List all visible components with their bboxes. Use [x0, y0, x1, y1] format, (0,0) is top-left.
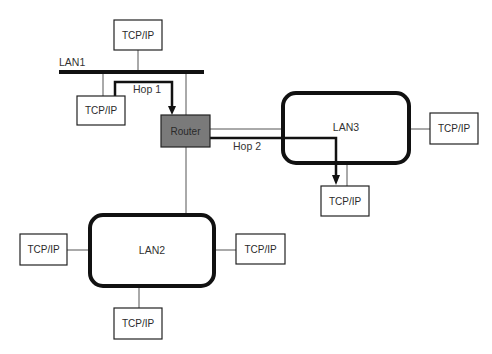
hop-2-label: Hop 2 [233, 140, 261, 152]
hop-2-arrowhead [332, 175, 340, 185]
network-diagram: LAN1 LAN3 LAN2 Hop 1 Hop 2 Router TCP/IP… [0, 0, 492, 354]
lan3-label: LAN3 [333, 121, 359, 133]
hop-1-arrowhead [168, 106, 176, 115]
lan1-label: LAN1 [59, 56, 85, 68]
host-lan2-right-label: TCP/IP [244, 244, 277, 255]
diagram-canvas: LAN1 LAN3 LAN2 Hop 1 Hop 2 Router TCP/IP… [0, 0, 492, 354]
hop-1-label: Hop 1 [133, 83, 161, 95]
connectors [67, 50, 430, 308]
host-lan3-right-label: TCP/IP [438, 123, 471, 134]
host-lan1-top-label: TCP/IP [122, 30, 155, 41]
host-lan2-left-label: TCP/IP [27, 244, 60, 255]
host-boxes [20, 20, 478, 339]
host-lan2-bottom-label: TCP/IP [122, 318, 155, 329]
lan2-label: LAN2 [139, 244, 165, 256]
router-label: Router [170, 126, 201, 137]
host-lan3-bottom-label: TCP/IP [329, 196, 362, 207]
host-lan1-left-label: TCP/IP [85, 105, 118, 116]
hop-2-path [210, 138, 336, 176]
